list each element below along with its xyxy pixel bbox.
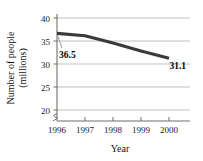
x-tick-label: 1998 [104, 125, 123, 135]
x-tick-labels: 1996 1997 1998 1999 2000 [48, 125, 179, 135]
x-axis [57, 117, 190, 121]
y-axis-title-line2: (millions) [17, 48, 29, 87]
x-axis-title: Year [111, 143, 130, 154]
x-tick-label: 2000 [160, 125, 179, 135]
y-tick-label: 35 [41, 37, 51, 47]
y-tick-label: 20 [41, 106, 51, 116]
x-tick-label: 1997 [76, 125, 95, 135]
annotation-leader-line [58, 36, 63, 49]
x-tick-label: 1996 [48, 125, 67, 135]
y-tick-label: 30 [41, 60, 51, 70]
y-axis [54, 14, 58, 118]
x-tick-label: 1999 [132, 125, 151, 135]
chart-canvas: 40 35 30 25 20 1996 1997 1998 1999 2000 … [0, 0, 203, 161]
data-label-start: 36.5 [59, 50, 76, 60]
axis-break-marker [53, 114, 57, 122]
data-label-end: 31.1 [169, 61, 186, 71]
y-axis-title-line1: Number of people [5, 31, 16, 104]
line-chart: 40 35 30 25 20 1996 1997 1998 1999 2000 … [0, 0, 203, 161]
y-tick-label: 25 [41, 83, 51, 93]
y-tick-label: 40 [41, 14, 51, 24]
y-tick-labels: 40 35 30 25 20 [41, 14, 51, 116]
